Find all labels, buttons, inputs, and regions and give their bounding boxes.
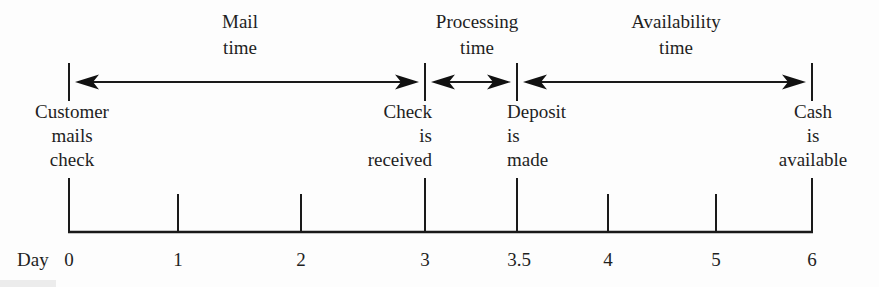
event-label-customer-mails-check: Customer mails check <box>7 100 137 172</box>
event-label-line: Customer <box>7 100 137 124</box>
day-tick-label-5: 5 <box>686 249 746 271</box>
event-label-line: Cash <box>748 100 878 124</box>
event-label-line: mails <box>7 124 137 148</box>
event-label-deposit-is-made: Deposit is made <box>507 100 637 172</box>
event-label-line: is <box>507 124 637 148</box>
interval-label-line: Processing <box>387 9 567 35</box>
day-tick-label-0: 0 <box>39 249 99 271</box>
event-label-line: is <box>302 124 432 148</box>
day-tick-label-3-5: 3.5 <box>489 249 549 271</box>
event-label-cash-is-available: Cash is available <box>748 100 878 172</box>
day-tick-label-3: 3 <box>395 249 455 271</box>
interval-label-line: time <box>586 35 766 61</box>
day-tick-label-1: 1 <box>148 249 208 271</box>
event-label-line: Deposit <box>507 100 637 124</box>
day-tick-label-6: 6 <box>782 249 842 271</box>
figure-caption-bar-fragment <box>0 280 56 287</box>
float-timeline-diagram: Mail time Processing time Availability t… <box>0 0 879 287</box>
event-label-line: made <box>507 148 637 172</box>
event-label-line: Check <box>302 100 432 124</box>
interval-label-mail-time: Mail time <box>150 9 330 61</box>
event-label-line: received <box>302 148 432 172</box>
interval-label-availability-time: Availability time <box>586 9 766 61</box>
day-tick-label-4: 4 <box>578 249 638 271</box>
event-label-line: check <box>7 148 137 172</box>
event-label-check-is-received: Check is received <box>302 100 432 172</box>
event-label-line: is <box>748 124 878 148</box>
interval-label-line: time <box>387 35 567 61</box>
day-tick-label-2: 2 <box>271 249 331 271</box>
interval-label-line: time <box>150 35 330 61</box>
interval-label-processing-time: Processing time <box>387 9 567 61</box>
interval-label-line: Mail <box>150 9 330 35</box>
interval-label-line: Availability <box>586 9 766 35</box>
event-label-line: available <box>748 148 878 172</box>
